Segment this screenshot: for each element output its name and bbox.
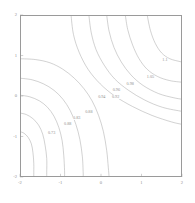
- contour-label: 1.05: [146, 74, 154, 78]
- y-tick-label: -1: [6, 134, 17, 139]
- x-tick-label: -2: [18, 181, 22, 186]
- x-tick-label: 0: [100, 181, 102, 186]
- contour-label: 0.96: [112, 87, 120, 91]
- contour-label: 0.98: [126, 82, 134, 86]
- y-tick-label: -2: [6, 175, 17, 180]
- contour-label: 0.73: [48, 131, 56, 135]
- contour-label: 1.1: [162, 58, 168, 62]
- contour-label: 0.83: [73, 116, 81, 120]
- contour-label: 0.92: [112, 95, 120, 99]
- contour-plot-figure: -2-1012 -2-1012 1.11.050.980.960.940.920…: [0, 0, 195, 203]
- contour-label: 0.88: [64, 122, 72, 126]
- y-tick-label: 0: [6, 94, 17, 99]
- contour-label: 0.88: [85, 110, 93, 114]
- contour-label: 0.94: [98, 95, 106, 99]
- x-tick-label: 2: [181, 181, 183, 186]
- y-tick-label: 2: [6, 13, 17, 18]
- x-tick-label: 1: [140, 181, 142, 186]
- x-tick-label: -1: [59, 181, 63, 186]
- y-tick-label: 1: [6, 53, 17, 58]
